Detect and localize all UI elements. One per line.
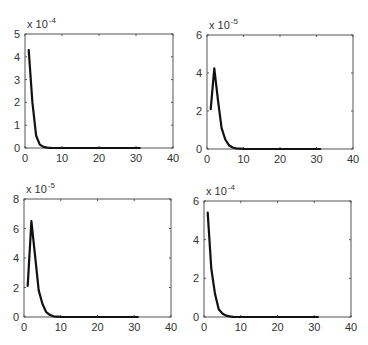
x-tick-label: 40 bbox=[345, 321, 357, 333]
y-tick-label: 4 bbox=[14, 51, 20, 63]
axes-frame bbox=[207, 35, 353, 149]
axes-frame bbox=[24, 199, 171, 317]
y-tick-label: 6 bbox=[196, 29, 202, 41]
y-tick-label: 0 bbox=[14, 142, 20, 154]
data-line bbox=[29, 50, 140, 148]
x-tick-label: 0 bbox=[204, 153, 210, 165]
y-tick-label: 1 bbox=[14, 119, 20, 131]
y-tick-label: 6 bbox=[13, 223, 19, 235]
y-tick-label: 3 bbox=[14, 74, 20, 86]
y-multiplier-label: x 10-5 bbox=[209, 17, 238, 31]
y-multiplier-label: x 10-5 bbox=[26, 181, 55, 195]
subplot-top-left: 010203040012345x 10-4 bbox=[14, 16, 179, 164]
x-tick-label: 30 bbox=[130, 152, 142, 164]
x-tick-label: 40 bbox=[167, 152, 179, 164]
y-tick-label: 8 bbox=[13, 193, 19, 205]
y-multiplier-label: x 10-4 bbox=[206, 183, 235, 197]
subplot-top-right: 0102030400246x 10-5 bbox=[196, 17, 359, 165]
x-tick-label: 0 bbox=[201, 321, 207, 333]
y-tick-label: 4 bbox=[13, 252, 19, 264]
y-tick-label: 0 bbox=[193, 311, 199, 323]
y-tick-label: 5 bbox=[14, 28, 20, 40]
y-tick-label: 2 bbox=[193, 272, 199, 284]
x-tick-label: 10 bbox=[55, 321, 67, 333]
y-tick-label: 2 bbox=[13, 282, 19, 294]
y-tick-label: 4 bbox=[196, 67, 202, 79]
x-tick-label: 10 bbox=[235, 321, 247, 333]
x-tick-label: 0 bbox=[22, 152, 28, 164]
subplot-bottom-right: 0102030400246x 10-4 bbox=[193, 183, 357, 333]
x-tick-label: 20 bbox=[271, 321, 283, 333]
figure-canvas: 010203040012345x 10-4 0102030400246x 10-… bbox=[0, 0, 368, 345]
y-tick-label: 0 bbox=[196, 143, 202, 155]
x-tick-label: 20 bbox=[91, 321, 103, 333]
x-tick-label: 0 bbox=[21, 321, 27, 333]
y-multiplier-label: x 10-4 bbox=[27, 16, 56, 30]
x-tick-label: 40 bbox=[165, 321, 177, 333]
data-line bbox=[208, 213, 318, 317]
subplot-bottom-left: 01020304002468x 10-5 bbox=[13, 181, 177, 333]
x-tick-label: 20 bbox=[274, 153, 286, 165]
y-tick-label: 4 bbox=[193, 234, 199, 246]
y-tick-label: 2 bbox=[14, 96, 20, 108]
axes-frame bbox=[204, 201, 351, 317]
data-line bbox=[28, 221, 138, 317]
y-tick-label: 2 bbox=[196, 105, 202, 117]
x-tick-label: 40 bbox=[347, 153, 359, 165]
x-tick-label: 20 bbox=[93, 152, 105, 164]
axes-frame bbox=[25, 34, 173, 148]
x-tick-label: 30 bbox=[308, 321, 320, 333]
y-tick-label: 0 bbox=[13, 311, 19, 323]
x-tick-label: 10 bbox=[56, 152, 68, 164]
data-line bbox=[211, 68, 320, 149]
x-tick-label: 30 bbox=[310, 153, 322, 165]
x-tick-label: 10 bbox=[237, 153, 249, 165]
x-tick-label: 30 bbox=[128, 321, 140, 333]
y-tick-label: 6 bbox=[193, 195, 199, 207]
